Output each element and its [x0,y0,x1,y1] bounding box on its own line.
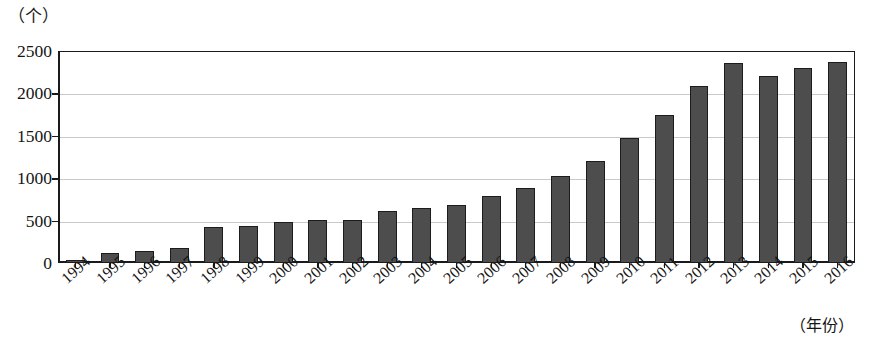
x-tick-label: 2001 [301,253,337,288]
x-tick-label: 2002 [336,253,372,288]
x-tick-label: 2008 [543,253,579,288]
y-tick-mark [52,178,58,180]
x-tick-label: 2004 [405,253,441,288]
x-tick-label: 1994 [58,253,94,288]
x-tick-label: 2013 [717,253,753,288]
x-tick-label: 1999 [232,253,268,288]
x-axis-title: （年份） [790,312,854,336]
x-tick-label: 2007 [509,253,545,288]
x-tick-label: 1996 [128,253,164,288]
x-tick-label: 2014 [751,253,787,288]
x-tick-label: 2015 [786,253,822,288]
x-tick-label: 2011 [647,253,682,287]
y-tick-mark [52,221,58,223]
x-tick-label: 2010 [613,253,649,288]
x-tick-label: 2016 [821,253,857,288]
bar-chart: （个） 05001000150020002500 199419951996199… [0,0,890,341]
x-tick-label: 2000 [266,253,302,288]
x-tick-label: 1995 [93,253,129,288]
x-tick-label: 2006 [474,253,510,288]
y-tick-mark [52,136,58,138]
x-tick-label: 2009 [578,253,614,288]
x-tick-label: 1997 [162,253,198,288]
x-tick-label: 2003 [370,253,406,288]
x-tick-label: 1998 [197,253,233,288]
x-tick-label: 2005 [440,253,476,288]
x-axis-labels: 1994199519961997199819992000200120022003… [0,0,890,341]
x-tick-label: 2012 [682,253,718,288]
y-tick-mark [52,93,58,95]
